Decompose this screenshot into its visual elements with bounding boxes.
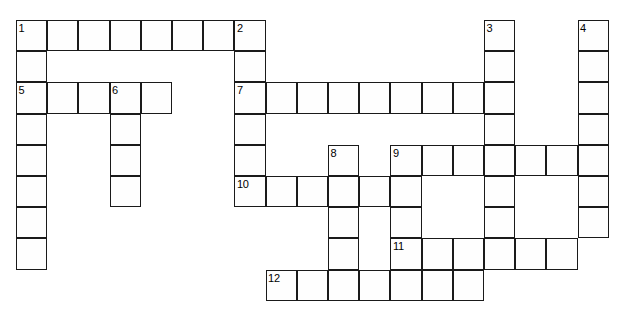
crossword-cell[interactable] <box>234 82 265 113</box>
crossword-cell[interactable] <box>484 238 515 269</box>
crossword-cell[interactable] <box>515 238 546 269</box>
crossword-cell[interactable] <box>297 270 328 301</box>
crossword-cell[interactable] <box>16 114 47 145</box>
crossword-cell[interactable] <box>266 82 297 113</box>
crossword-cell[interactable] <box>328 238 359 269</box>
crossword-cell[interactable] <box>141 20 172 51</box>
crossword-cell[interactable] <box>266 176 297 207</box>
crossword-cell[interactable] <box>203 20 234 51</box>
crossword-cell[interactable] <box>546 145 577 176</box>
crossword-cell[interactable] <box>78 20 109 51</box>
crossword-cell[interactable] <box>422 270 453 301</box>
crossword-cell[interactable] <box>484 145 515 176</box>
crossword-cell[interactable] <box>484 176 515 207</box>
crossword-cell[interactable] <box>515 145 546 176</box>
crossword-cell[interactable] <box>172 20 203 51</box>
crossword-cell[interactable] <box>390 82 421 113</box>
crossword-cell[interactable] <box>359 82 390 113</box>
crossword-puzzle-grid: 123456789101112 <box>0 0 637 315</box>
crossword-cell[interactable] <box>328 207 359 238</box>
crossword-cell[interactable] <box>359 270 390 301</box>
crossword-cell[interactable] <box>578 51 609 82</box>
crossword-cell[interactable] <box>578 176 609 207</box>
crossword-cell[interactable] <box>16 238 47 269</box>
crossword-cell[interactable] <box>484 114 515 145</box>
crossword-cell[interactable] <box>234 114 265 145</box>
crossword-cell[interactable] <box>484 51 515 82</box>
crossword-cell[interactable] <box>546 238 577 269</box>
crossword-cell[interactable] <box>110 82 141 113</box>
crossword-cell[interactable] <box>390 238 421 269</box>
crossword-cell[interactable] <box>297 82 328 113</box>
crossword-cell[interactable] <box>484 207 515 238</box>
crossword-cell[interactable] <box>328 145 359 176</box>
crossword-cell[interactable] <box>484 20 515 51</box>
crossword-cell[interactable] <box>328 270 359 301</box>
crossword-cell[interactable] <box>234 145 265 176</box>
crossword-cell[interactable] <box>110 20 141 51</box>
crossword-cell[interactable] <box>16 176 47 207</box>
crossword-cell[interactable] <box>110 145 141 176</box>
crossword-cell[interactable] <box>578 20 609 51</box>
crossword-cell[interactable] <box>453 270 484 301</box>
crossword-cell[interactable] <box>578 82 609 113</box>
crossword-cell[interactable] <box>78 82 109 113</box>
crossword-cell[interactable] <box>16 82 47 113</box>
crossword-cell[interactable] <box>16 145 47 176</box>
crossword-cell[interactable] <box>110 114 141 145</box>
crossword-cell[interactable] <box>390 207 421 238</box>
crossword-cell[interactable] <box>390 270 421 301</box>
crossword-cell[interactable] <box>578 114 609 145</box>
crossword-cell[interactable] <box>578 207 609 238</box>
crossword-cell[interactable] <box>297 176 328 207</box>
crossword-cell[interactable] <box>453 238 484 269</box>
crossword-cell[interactable] <box>390 145 421 176</box>
crossword-cell[interactable] <box>16 207 47 238</box>
crossword-cell[interactable] <box>578 145 609 176</box>
crossword-cell[interactable] <box>453 145 484 176</box>
crossword-cell[interactable] <box>422 82 453 113</box>
crossword-cell[interactable] <box>234 51 265 82</box>
crossword-cell[interactable] <box>422 145 453 176</box>
crossword-cell[interactable] <box>359 176 390 207</box>
crossword-cell[interactable] <box>266 270 297 301</box>
crossword-cell[interactable] <box>47 20 78 51</box>
crossword-cell[interactable] <box>328 82 359 113</box>
crossword-cell[interactable] <box>16 20 47 51</box>
crossword-cell[interactable] <box>422 238 453 269</box>
crossword-cell[interactable] <box>47 82 78 113</box>
crossword-cell[interactable] <box>110 176 141 207</box>
crossword-cell[interactable] <box>390 176 421 207</box>
crossword-cell[interactable] <box>234 176 265 207</box>
crossword-cell[interactable] <box>484 82 515 113</box>
crossword-cell[interactable] <box>328 176 359 207</box>
crossword-cell[interactable] <box>16 51 47 82</box>
crossword-cell[interactable] <box>234 20 265 51</box>
crossword-cell[interactable] <box>141 82 172 113</box>
crossword-cell[interactable] <box>453 82 484 113</box>
